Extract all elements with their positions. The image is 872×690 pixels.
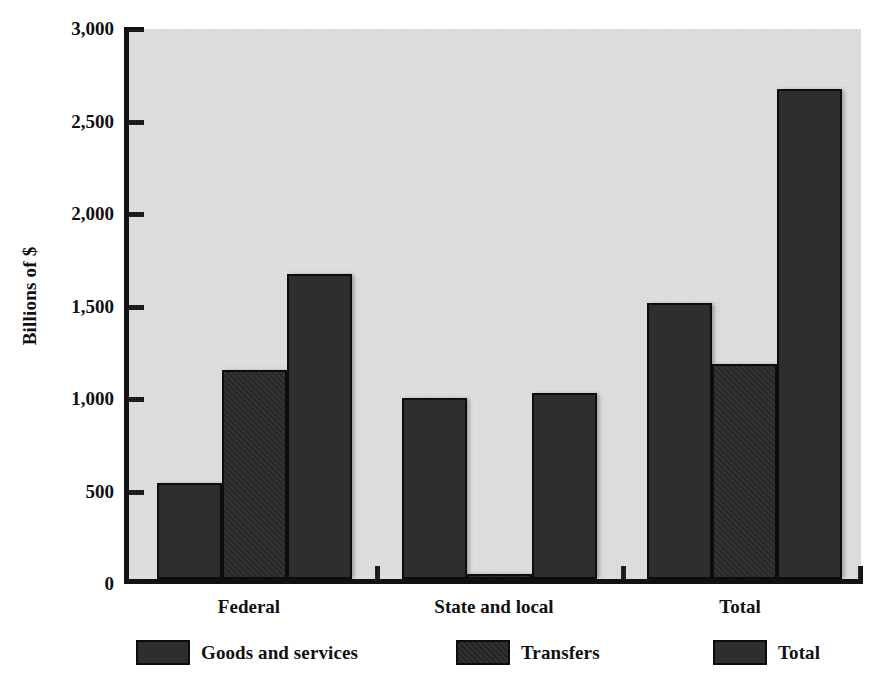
bar-chart-figure: Billions of $ 3,000 2,500 2,000 1,500 1,… [0,0,872,690]
y-tick-label-2000: 2,000 [18,203,114,225]
chart-legend: Goods and services Transfers Total [124,640,861,680]
y-tick-label-2500: 2,500 [18,111,114,133]
y-tick-label-0: 0 [18,573,114,595]
bar-total-total [777,89,842,579]
legend-label-transfers: Transfers [521,642,600,664]
bar-federal-transfers [222,370,287,579]
y-tick-label-1500: 1,500 [18,296,114,318]
bar-state-and-local-total [532,393,597,579]
legend-item-total: Total [713,640,820,665]
y-tick-label-1000: 1,000 [18,388,114,410]
bar-federal-goods-and-services [157,483,222,579]
legend-swatch-goods-and-services [136,640,190,665]
legend-swatch-transfers [456,640,510,665]
legend-item-goods-and-services: Goods and services [136,640,358,665]
y-axis-tick-labels: 3,000 2,500 2,000 1,500 1,000 500 0 [18,0,114,690]
bar-state-and-local-transfers [467,574,532,580]
x-label-federal: Federal [218,596,280,618]
x-label-total: Total [719,596,761,618]
bar-total-goods-and-services [647,303,712,579]
y-tick-label-3000: 3,000 [18,18,114,40]
x-axis-category-labels: Federal State and local Total [124,596,861,630]
bar-state-and-local-goods-and-services [402,398,467,579]
x-label-state-and-local: State and local [434,596,553,618]
legend-label-total: Total [778,642,820,664]
bar-federal-total [287,274,352,579]
plot-area [124,29,861,584]
legend-swatch-total [713,640,767,665]
y-tick-label-500: 500 [18,481,114,503]
legend-item-transfers: Transfers [456,640,600,665]
legend-label-goods-and-services: Goods and services [201,642,358,664]
bars-layer [129,29,861,579]
bar-total-transfers [712,364,777,579]
